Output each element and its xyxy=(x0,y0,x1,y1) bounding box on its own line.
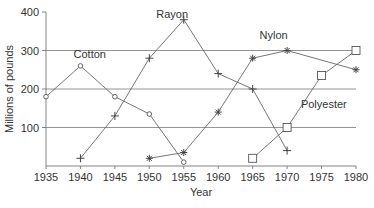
x-tick-label: 1975 xyxy=(309,171,333,183)
label-rayon: Rayon xyxy=(156,8,188,20)
circle-marker xyxy=(44,94,49,99)
axes: 1002003004001935194019451950195519601965… xyxy=(21,6,369,183)
star-marker xyxy=(284,47,291,54)
x-tick-label: 1940 xyxy=(68,171,92,183)
circle-marker xyxy=(147,112,152,117)
circle-marker xyxy=(181,160,186,165)
circle-marker xyxy=(113,94,118,99)
star-marker xyxy=(180,149,187,156)
y-tick-label: 300 xyxy=(21,45,39,57)
star-marker xyxy=(146,155,153,162)
x-tick-label: 1960 xyxy=(206,171,230,183)
label-cotton: Cotton xyxy=(74,48,106,60)
y-axis-label: Millions of pounds xyxy=(3,44,15,133)
y-tick-label: 100 xyxy=(21,122,39,134)
x-tick-label: 1980 xyxy=(344,171,368,183)
y-tick-label: 200 xyxy=(21,83,39,95)
series-lines xyxy=(44,16,360,165)
square-marker xyxy=(352,47,360,55)
label-nylon: Nylon xyxy=(260,29,288,41)
x-tick-label: 1945 xyxy=(103,171,127,183)
plus-marker xyxy=(283,147,291,155)
gridlines xyxy=(46,51,356,128)
x-tick-label: 1970 xyxy=(275,171,299,183)
plus-marker xyxy=(249,85,257,93)
circle-marker xyxy=(78,64,83,69)
x-tick-label: 1955 xyxy=(172,171,196,183)
label-polyester: Polyester xyxy=(301,98,347,110)
square-marker xyxy=(249,154,257,162)
star-marker xyxy=(353,66,360,73)
plus-marker xyxy=(214,70,222,78)
star-marker xyxy=(215,109,222,116)
square-marker xyxy=(318,72,326,80)
x-tick-label: 1965 xyxy=(240,171,264,183)
line-chart: 1002003004001935194019451950195519601965… xyxy=(0,0,374,208)
square-marker xyxy=(283,124,291,132)
y-tick-label: 400 xyxy=(21,6,39,18)
x-axis-label: Year xyxy=(190,186,213,198)
x-tick-label: 1950 xyxy=(137,171,161,183)
x-tick-label: 1935 xyxy=(34,171,58,183)
star-marker xyxy=(249,55,256,62)
